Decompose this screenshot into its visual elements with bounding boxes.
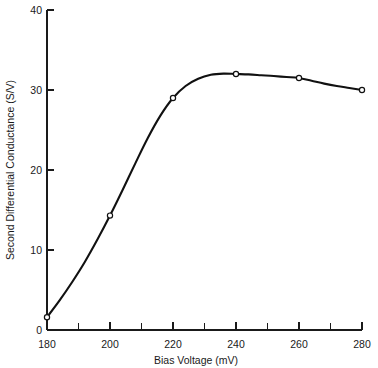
x-axis-title: Bias Voltage (mV) (154, 354, 238, 366)
y-tick-label-10: 10 (30, 244, 42, 256)
chart-background (0, 0, 378, 368)
x-tick-label-240: 240 (227, 338, 245, 350)
x-tick-label-280: 280 (353, 338, 371, 350)
y-tick-label-20: 20 (30, 164, 42, 176)
x-tick-label-220: 220 (164, 338, 182, 350)
chart-svg: 40 30 20 10 0 180 200 220 240 260 280 Bi… (0, 0, 378, 368)
data-point-marker (296, 75, 301, 80)
y-tick-label-30: 30 (30, 84, 42, 96)
y-tick-label-0: 0 (36, 324, 42, 336)
x-tick-label-180: 180 (38, 338, 56, 350)
chart-figure: 40 30 20 10 0 180 200 220 240 260 280 Bi… (0, 0, 378, 368)
y-axis-title: Second Differential Conductance (S/V) (4, 80, 16, 260)
data-point-marker (233, 71, 238, 76)
data-point-marker (359, 87, 364, 92)
x-tick-label-200: 200 (101, 338, 119, 350)
data-point-marker (44, 315, 49, 320)
y-tick-label-40: 40 (30, 4, 42, 16)
data-point-marker (170, 95, 175, 100)
data-point-marker (107, 213, 112, 218)
x-tick-label-260: 260 (290, 338, 308, 350)
